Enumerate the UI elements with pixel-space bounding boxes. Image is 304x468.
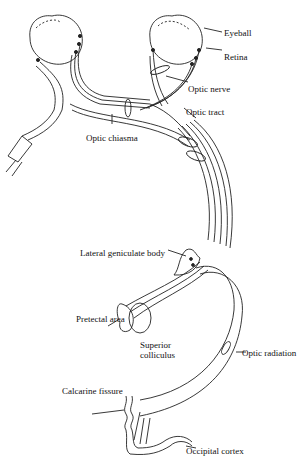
occipital-cortex [125, 396, 192, 455]
label-calcarine-fissure: Calcarine fissure [62, 386, 123, 396]
label-optic-chiasma: Optic chiasma [86, 133, 138, 143]
label-optic-nerve: Optic nerve [188, 84, 230, 94]
label-optic-radiation: Optic radiation [242, 348, 296, 358]
optic-tract [177, 120, 232, 248]
label-lateral-geniculate-body: Lateral geniculate body [80, 248, 165, 258]
label-eyeball: Eyeball [224, 28, 252, 38]
label-superior-colliculus-2: colliculus [140, 350, 175, 360]
superior-colliculus-shape [129, 303, 151, 333]
left-eyeball [30, 15, 83, 64]
label-pretectal-area: Pretectal area [76, 314, 125, 324]
label-retina: Retina [224, 52, 248, 62]
label-superior-colliculus-1: Superior [140, 340, 171, 350]
label-optic-tract: Optic tract [186, 107, 224, 117]
label-occipital-cortex: Occipital cortex [186, 446, 244, 456]
visual-pathway-drawing [0, 0, 304, 468]
right-eyeball [150, 15, 203, 65]
